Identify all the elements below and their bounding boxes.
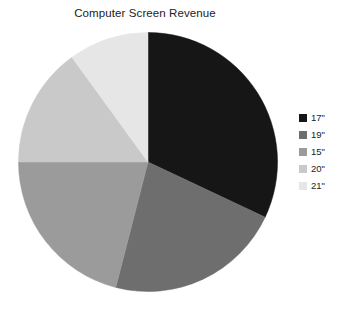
legend-item-label: 21" [311,181,325,191]
legend-item-label: 17" [311,113,325,123]
legend-swatch-icon [299,148,307,156]
legend-item-label: 15" [311,147,325,157]
pie-plot-area [0,0,290,309]
pie-svg [18,32,278,292]
legend-item[interactable]: 21" [299,177,343,194]
legend-item-label: 19" [311,130,325,140]
chart-legend: 17"19"15"20"21" [299,109,343,194]
legend-item[interactable]: 17" [299,109,343,126]
legend-item-label: 20" [311,164,325,174]
legend-item[interactable]: 20" [299,160,343,177]
legend-item[interactable]: 15" [299,143,343,160]
legend-swatch-icon [299,114,307,122]
legend-swatch-icon [299,165,307,173]
pie-slice-group [19,33,278,292]
legend-swatch-icon [299,182,307,190]
legend-item[interactable]: 19" [299,126,343,143]
legend-swatch-icon [299,131,307,139]
pie-chart-figure: Computer Screen Revenue 17"19"15"20"21" [0,0,343,309]
